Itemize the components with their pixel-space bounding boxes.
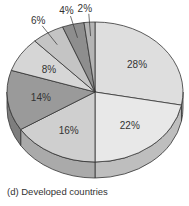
slice-label: 8% xyxy=(42,64,57,75)
slice-label: 14% xyxy=(31,92,51,103)
slice-label: 16% xyxy=(59,125,79,136)
slice-label: 2% xyxy=(78,3,93,14)
slice-label: 28% xyxy=(127,59,147,70)
slice-label: 22% xyxy=(120,120,140,131)
slice-label: 4% xyxy=(59,5,74,16)
chart-caption: (d) Developed countries xyxy=(7,186,108,197)
pie-chart: 28%22%16%14%8%6%4%2% xyxy=(0,0,189,186)
slice-label: 6% xyxy=(31,15,46,26)
